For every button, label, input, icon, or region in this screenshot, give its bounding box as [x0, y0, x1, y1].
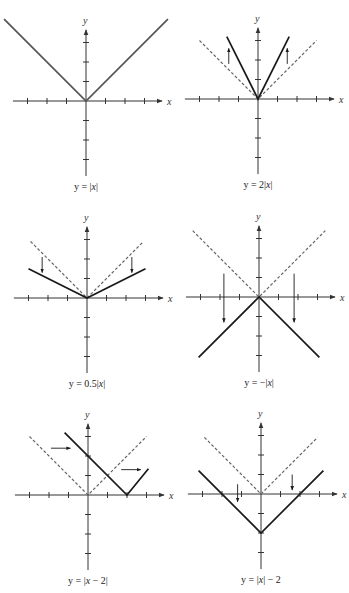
graph-caption: y = |x| − 2	[241, 574, 281, 585]
caption-suffix: |	[271, 179, 273, 190]
graph-caption: y = 0.5|x|	[69, 378, 106, 389]
caption-suffix: − 2|	[90, 575, 108, 586]
x-axis-label: x	[168, 490, 174, 501]
y-axis-label: y	[82, 15, 88, 26]
x-axis-label: x	[167, 293, 173, 304]
x-axis-label: x	[339, 292, 345, 303]
y-axis-label: y	[257, 408, 263, 419]
caption-prefix: y = 2|	[243, 179, 266, 190]
caption-suffix: |	[96, 181, 98, 192]
graph-panel-5: xy	[15, 409, 174, 570]
graph-panel-1: xy	[4, 15, 172, 176]
graph-panel-4: xy	[186, 211, 345, 372]
y-axis-label: y	[83, 212, 89, 223]
x-axis-label: x	[341, 489, 347, 500]
caption-prefix: y = −|	[244, 377, 267, 388]
graph-panel-6: xy	[188, 408, 347, 569]
caption-suffix: | − 2	[263, 574, 281, 585]
caption-prefix: y = 0.5|	[69, 378, 99, 389]
transformations-figure: xyxyxyxyxyxy	[0, 0, 349, 593]
y-axis-label: y	[84, 409, 90, 420]
y-axis-label: y	[254, 13, 260, 24]
y-axis-label: y	[255, 211, 261, 222]
graph-panel-2: xy	[185, 13, 344, 174]
caption-suffix: |	[272, 377, 274, 388]
caption-prefix: y = |	[68, 575, 86, 586]
x-axis-label: x	[166, 96, 172, 107]
x-axis-label: x	[338, 94, 344, 105]
graph-caption: y = 2|x|	[243, 179, 272, 190]
graph-caption: y = |x − 2|	[68, 575, 108, 586]
graph-caption: y = |x|	[74, 181, 98, 192]
caption-prefix: y = |	[74, 181, 92, 192]
graph-caption: y = −|x|	[244, 377, 274, 388]
transformed-curve	[65, 433, 149, 495]
caption-suffix: |	[103, 378, 105, 389]
graph-panel-3: xy	[14, 212, 173, 373]
caption-prefix: y = |	[241, 574, 259, 585]
